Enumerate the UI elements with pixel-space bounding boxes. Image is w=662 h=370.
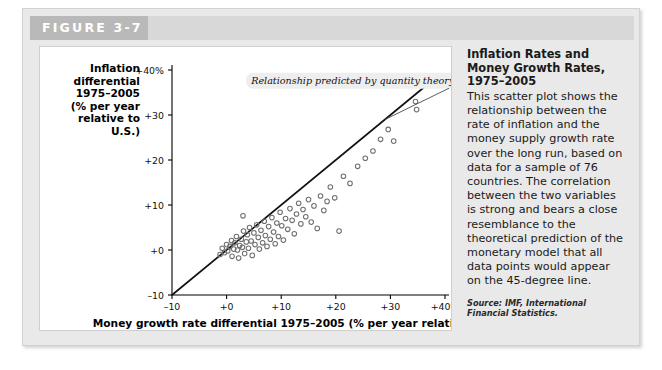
- data-point: [259, 228, 264, 233]
- figure-container: FIGURE 3-7 –10+0+10+20+30+40%–10+0+10+20…: [22, 8, 640, 346]
- data-point: [386, 127, 391, 132]
- data-point: [328, 185, 333, 190]
- data-point: [252, 231, 257, 236]
- data-point: [348, 181, 353, 186]
- data-point: [236, 256, 241, 261]
- chart-panel: –10+0+10+20+30+40%–10+0+10+20+30+40%Infl…: [39, 46, 452, 331]
- figure-body: –10+0+10+20+30+40%–10+0+10+20+30+40%Infl…: [30, 42, 634, 339]
- x-tick-label: –10: [164, 301, 181, 312]
- data-point: [247, 225, 252, 230]
- y-axis-title-line: U.S.): [111, 125, 140, 137]
- x-tick-label: +10: [271, 301, 291, 312]
- y-axis-title-line: 1975–2005: [76, 87, 140, 99]
- data-point: [241, 229, 246, 234]
- data-point: [413, 99, 418, 104]
- data-point: [341, 174, 346, 179]
- data-point: [414, 107, 419, 112]
- y-tick-label: –10: [147, 290, 164, 301]
- data-point: [244, 240, 249, 245]
- caption-source: Source: IMF, International Financial Sta…: [467, 298, 627, 318]
- data-point: [325, 199, 330, 204]
- data-point: [273, 241, 278, 246]
- data-point: [242, 251, 247, 256]
- data-point: [220, 246, 225, 251]
- x-axis-title: Money growth rate differential 1975–2005…: [93, 317, 451, 329]
- data-point: [285, 227, 290, 232]
- data-point: [315, 226, 320, 231]
- data-point: [378, 137, 383, 142]
- data-point: [283, 216, 288, 221]
- data-point: [246, 246, 251, 251]
- x-tick-label: +40%: [431, 301, 451, 312]
- figure-number-tab: FIGURE 3-7: [30, 16, 148, 40]
- data-point: [355, 164, 360, 169]
- x-tick-label: +20: [326, 301, 346, 312]
- data-point: [271, 230, 276, 235]
- data-point: [281, 238, 286, 243]
- annotation-label: Relationship predicted by quantity theor…: [250, 75, 451, 86]
- data-point: [309, 220, 314, 225]
- data-point: [253, 242, 258, 247]
- data-point: [363, 156, 368, 161]
- data-point: [279, 223, 284, 228]
- reference-line-45-degree: [172, 79, 434, 295]
- figure-number-label: FIGURE 3-7: [42, 20, 143, 35]
- data-point: [299, 222, 304, 227]
- data-point: [306, 197, 311, 202]
- data-point: [337, 229, 342, 234]
- data-point: [391, 139, 396, 144]
- y-tick-label: +20: [144, 155, 164, 166]
- data-point: [266, 224, 271, 229]
- data-point: [257, 247, 262, 252]
- data-point: [290, 218, 295, 223]
- data-point: [318, 194, 323, 199]
- data-point: [303, 214, 308, 219]
- data-point: [249, 239, 254, 244]
- data-point: [294, 212, 299, 217]
- data-point: [288, 206, 293, 211]
- data-point: [268, 237, 273, 242]
- data-point: [263, 233, 268, 238]
- y-axis-title-line: (% per year: [71, 100, 141, 112]
- caption-body: This scatter plot shows the relationship…: [467, 90, 627, 289]
- data-point: [278, 210, 283, 215]
- y-axis-title-line: differential: [74, 75, 140, 87]
- data-point: [270, 215, 275, 220]
- data-point: [234, 234, 239, 239]
- y-tick-label: +30: [144, 110, 164, 121]
- x-tick-label: +30: [381, 301, 401, 312]
- data-point: [250, 253, 255, 258]
- data-point: [241, 214, 246, 219]
- figure-caption: Inflation Rates and Money Growth Rates, …: [467, 48, 627, 328]
- scatter-chart: –10+0+10+20+30+40%–10+0+10+20+30+40%Infl…: [40, 47, 451, 330]
- data-point: [312, 204, 317, 209]
- y-axis-title-line: Inflation: [90, 62, 140, 74]
- data-point: [321, 208, 326, 213]
- data-point: [275, 221, 280, 226]
- x-tick-label: +0: [220, 301, 234, 312]
- data-point: [256, 235, 261, 240]
- y-axis-title-line: relative to: [78, 112, 140, 124]
- caption-title: Inflation Rates and Money Growth Rates, …: [467, 48, 627, 89]
- data-point: [332, 196, 337, 201]
- data-point: [292, 232, 297, 237]
- data-point: [260, 241, 265, 246]
- data-point: [371, 149, 376, 154]
- data-point: [265, 244, 270, 249]
- y-tick-label: +0: [150, 245, 164, 256]
- y-tick-label: +10: [144, 200, 164, 211]
- data-point: [296, 201, 301, 206]
- figure-header-band: FIGURE 3-7: [30, 16, 634, 40]
- data-point: [301, 207, 306, 212]
- data-point: [276, 234, 281, 239]
- data-point: [230, 254, 235, 259]
